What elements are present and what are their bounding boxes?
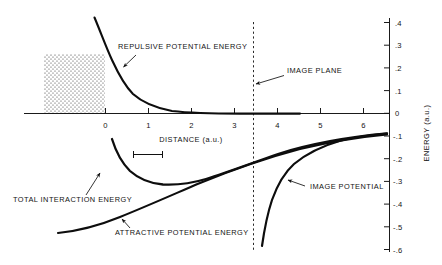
y-tick-label-6: -.2: [393, 155, 402, 164]
x-tick-label-5: 5: [318, 121, 322, 130]
figure-svg: 0 1 2 3 4 5 6 DISTANCE (a.u.) .4 .3 .2 .…: [0, 0, 442, 265]
potential-energy-figure: 0 1 2 3 4 5 6 DISTANCE (a.u.) .4 .3 .2 .…: [0, 0, 442, 265]
y-tick-label-8: -.4: [393, 200, 402, 209]
leader-repulsive-potential: [124, 55, 137, 67]
measure-bar: [133, 151, 163, 158]
x-axis-title: DISTANCE (a.u.): [159, 135, 223, 144]
x-tick-label-1: 1: [146, 121, 150, 130]
x-tick-label-4: 4: [275, 121, 279, 130]
y-tick-label-0: .4: [395, 19, 402, 28]
x-tick-label-2: 2: [189, 121, 193, 130]
x-tick-label-0: 0: [103, 121, 107, 130]
y-tick-label-7: -.3: [393, 177, 402, 186]
y-tick-label-1: .3: [395, 41, 402, 50]
label-image-plane: IMAGE PLANE: [287, 66, 342, 75]
y-axis-title: ENERGY (a.u.): [422, 105, 431, 162]
y-tick-label-4: 0: [395, 109, 399, 118]
leader-attractive-potential: [122, 219, 130, 228]
leader-image-potential: [288, 180, 305, 186]
y-tick-label-3: .1: [395, 87, 402, 96]
label-image-potential: IMAGE POTENTIAL: [310, 182, 384, 191]
x-tick-label-6: 6: [361, 121, 365, 130]
leader-total-interaction-energy: [86, 173, 100, 195]
y-axis-ticks: [384, 23, 390, 250]
label-total-interaction-energy: TOTAL INTERACTION ENERGY: [13, 195, 132, 204]
y-tick-label-9: -.5: [393, 223, 402, 232]
label-repulsive-potential: REPULSIVE POTENTIAL ENERGY: [118, 42, 247, 51]
y-tick-label-2: .2: [395, 64, 402, 73]
y-tick-label-10: -.6: [393, 246, 402, 255]
y-tick-label-5: -.1: [393, 132, 402, 141]
metal-bulk-region: [44, 54, 105, 113]
curve-total-interaction-energy: [112, 134, 387, 185]
leader-image-plane: [256, 76, 284, 85]
label-attractive-potential: ATTRACTIVE POTENTIAL ENERGY: [115, 228, 249, 237]
x-tick-label-3: 3: [232, 121, 236, 130]
